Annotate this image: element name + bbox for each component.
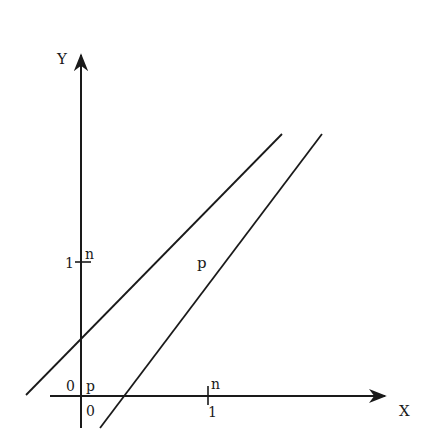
origin-below-label: 0 [86,403,95,419]
diagram-canvas: Y X 1 n n 1 0 p 0 p [0,0,439,439]
lower-line-label: p [197,254,207,272]
origin-left-label: 0 [66,378,75,394]
x-tick-one-label: 1 [208,404,217,420]
x-axis-label: X [399,402,410,420]
y-tick-one-label: 1 [65,255,74,271]
origin-right-label: p [86,378,95,394]
y-axis-label: Y [56,50,68,68]
x-tick-one-marker: n [211,376,220,392]
y-tick-one-marker: n [85,246,94,262]
